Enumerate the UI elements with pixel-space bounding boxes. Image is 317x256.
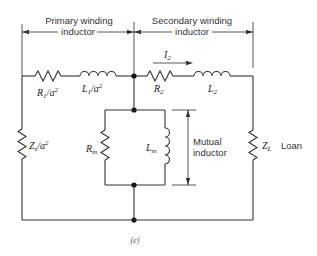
secondary-dimension: Secondary winding inductor [134,15,253,76]
mutual-dimension: Mutual inductor [172,110,227,185]
current-label: I2 [163,49,171,62]
arrow-right-icon [186,61,193,65]
r2-label: R2 [153,83,164,96]
resistor-zs-icon [18,129,26,159]
arrow-left-icon [22,30,29,34]
rm-label: Rm [85,143,97,156]
load-branch: ZL Loan [249,76,302,220]
secondary-label-line1: Secondary winding [152,15,232,26]
magnetizing-branch: Rm Lm [85,76,170,223]
primary-label-line1: Primary winding [45,15,113,26]
resistor-zl-icon [249,130,257,160]
inductor-l1-icon [80,72,116,77]
lm-label: Lm [145,142,157,155]
resistor-r2-icon [147,71,173,81]
secondary-label-line2: inductor [175,26,209,37]
resistor-rm-icon [101,130,109,160]
zs-label: Zs/a2 [29,139,49,153]
zl-note: Loan [281,140,302,151]
top-branch [22,71,253,81]
r1-label: R1/a2 [36,86,58,100]
primary-label-line2: inductor [61,26,95,37]
arrow-right-icon [127,30,134,34]
l1-label: L1/a2 [81,82,103,96]
current-i2: I2 [153,49,193,65]
arrow-down-icon [186,178,190,185]
inductor-lm-icon [165,128,170,164]
resistor-r1-icon [35,71,61,81]
circuit-diagram: Primary winding inductor Secondary windi… [0,0,317,256]
l2-label: L2 [207,83,218,96]
zl-label: ZL [262,140,272,153]
figure-caption: (e) [131,236,140,245]
arrow-up-icon [186,110,190,117]
mutual-label-line2: inductor [193,147,227,158]
arrow-right-icon [246,30,253,34]
inductor-l2-icon [194,72,230,77]
mutual-label-line1: Mutual [193,136,222,147]
arrow-left-icon [134,30,141,34]
primary-dimension: Primary winding inductor [22,15,134,76]
